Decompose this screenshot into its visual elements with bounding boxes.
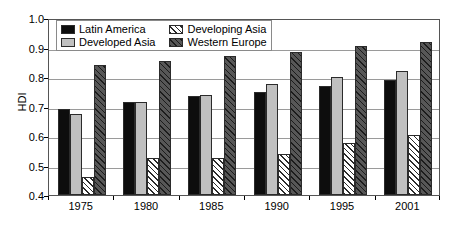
swatch-latin-america-icon	[61, 25, 75, 34]
legend-item: Developed Asia	[61, 36, 155, 48]
swatch-developing-asia-icon	[169, 25, 183, 34]
x-axis-tick-label: 2001	[395, 200, 419, 212]
x-axis-tick-label: 1990	[264, 200, 288, 212]
bar-developed-asia	[70, 114, 82, 195]
bar-developing-asia	[343, 143, 355, 195]
y-axis-tick-label: 0.7	[18, 103, 44, 113]
bar-developing-asia	[147, 158, 159, 195]
bar-developed-asia	[200, 95, 212, 195]
x-axis-tick-label: 1985	[199, 200, 223, 212]
chart-legend: Latin AmericaDeveloping AsiaDeveloped As…	[56, 20, 272, 51]
hdi-bar-chart: HDI 0.40.50.60.70.80.91.0 Latin AmericaD…	[0, 0, 455, 239]
bar-western-europe	[355, 46, 367, 195]
bar-latin-america	[58, 109, 70, 195]
bar-latin-america	[254, 92, 266, 195]
bar-developed-asia	[331, 77, 343, 195]
bar-developing-asia	[82, 177, 94, 195]
x-axis-tick-label: 1980	[134, 200, 158, 212]
legend-item: Western Europe	[169, 36, 266, 48]
y-axis-tick-label: 1.0	[18, 14, 44, 24]
bar-developing-asia	[408, 135, 420, 195]
legend-item-label: Developed Asia	[79, 36, 155, 48]
bar-developed-asia	[396, 71, 408, 195]
y-axis-tick-label: 0.6	[18, 132, 44, 142]
y-axis-tick-labels: 0.40.50.60.70.80.91.0	[16, 0, 44, 239]
bar-western-europe	[94, 65, 106, 195]
bar-latin-america	[319, 86, 331, 195]
bar-western-europe	[290, 52, 302, 195]
bar-western-europe	[159, 61, 171, 195]
bar-latin-america	[188, 96, 200, 195]
bar-group	[376, 20, 440, 195]
y-axis-tick-label: 0.4	[18, 191, 44, 201]
bar-group	[310, 20, 375, 195]
swatch-western-europe-icon	[169, 38, 183, 47]
bar-latin-america	[123, 102, 135, 195]
bar-western-europe	[420, 42, 432, 195]
y-axis-tick-label: 0.9	[18, 44, 44, 54]
bar-latin-america	[384, 80, 396, 195]
legend-item: Latin America	[61, 23, 155, 35]
legend-item-label: Western Europe	[187, 36, 266, 48]
x-axis-tick-label: 1995	[330, 200, 354, 212]
bar-developing-asia	[278, 154, 290, 195]
legend-item-label: Latin America	[79, 23, 146, 35]
x-axis-tick-label: 1975	[68, 200, 92, 212]
swatch-developed-asia-icon	[61, 38, 75, 47]
bar-developing-asia	[212, 158, 224, 195]
legend-item-label: Developing Asia	[187, 23, 266, 35]
legend-item: Developing Asia	[169, 23, 266, 35]
y-axis-tick-label: 0.5	[18, 162, 44, 172]
bar-developed-asia	[135, 102, 147, 195]
bar-developed-asia	[266, 84, 278, 195]
bar-western-europe	[224, 56, 236, 195]
y-axis-tick-label: 0.8	[18, 73, 44, 83]
x-axis-tick-labels: 197519801985199019952001	[48, 200, 440, 220]
